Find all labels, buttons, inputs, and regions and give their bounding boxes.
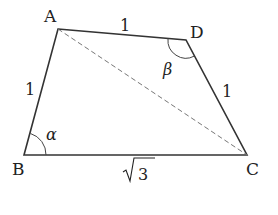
side-label-bc-radicand: 3 (138, 165, 148, 184)
angle-label-beta: β (162, 60, 172, 79)
angle-arc-alpha (31, 134, 47, 156)
vertex-label-c: C (246, 159, 259, 179)
diagram-canvas: A D B C 1 1 1 3 α β (0, 0, 278, 215)
vertex-label-d: D (190, 22, 204, 42)
side-label-dc: 1 (222, 82, 232, 101)
side-label-ab: 1 (25, 80, 35, 99)
quadrilateral-figure: A D B C 1 1 1 3 α β (0, 0, 278, 215)
quadrilateral-abcd (24, 29, 247, 155)
side-label-bc: 3 (123, 158, 155, 184)
side-label-ad: 1 (120, 16, 130, 35)
vertex-label-a: A (43, 6, 57, 26)
angle-label-alpha: α (46, 125, 57, 144)
vertex-label-b: B (12, 159, 25, 179)
diagonal-ac (58, 29, 247, 155)
